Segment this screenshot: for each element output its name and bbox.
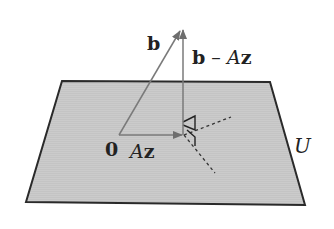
label-az-A: A [128, 140, 144, 162]
label-plane-u: U [294, 134, 312, 158]
label-b-minus-az-A: A [225, 46, 241, 68]
subspace-plane [26, 81, 305, 205]
label-az: Az [128, 140, 155, 162]
label-az-z: z [144, 140, 155, 162]
label-b-minus-az-b: b [192, 46, 205, 68]
label-b-minus-az-z: z [241, 46, 252, 68]
label-b: b [147, 32, 160, 54]
projection-diagram: b b – Az 0 Az U [0, 0, 334, 229]
label-b-minus-az-minus: – [205, 46, 227, 68]
label-b-minus-az: b – Az [192, 46, 252, 68]
label-origin: 0 [105, 138, 118, 160]
